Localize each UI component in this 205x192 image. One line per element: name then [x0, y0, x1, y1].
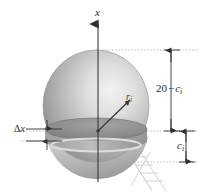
radius-vector-label-subscript: i [130, 96, 132, 104]
upper-dimension-subscript: i [180, 87, 182, 96]
lower-dimension-subscript: i [182, 144, 184, 153]
delta-x-variable: x [20, 123, 24, 134]
radius-vector-label: ri [126, 92, 132, 104]
upper-dimension-label: 20−ci [156, 83, 182, 96]
figure-container: x ri Δx 20−ci ci [0, 0, 205, 192]
upper-dimension-value: 20 [156, 82, 167, 94]
upper-dimension-operator: − [167, 82, 175, 94]
axis-label-x: x [95, 7, 100, 18]
sphere-center-dot [96, 129, 99, 132]
delta-x-label: Δx [14, 124, 25, 134]
lower-dimension-label: ci [177, 140, 184, 153]
